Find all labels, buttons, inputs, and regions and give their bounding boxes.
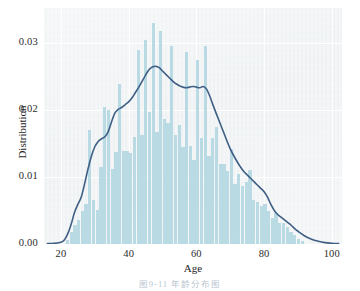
kde-curve — [44, 8, 342, 244]
figure-caption: 图9-11 年龄分布图 — [0, 277, 360, 289]
x-tick-label: 40 — [109, 248, 149, 259]
x-axis-label: Age — [44, 262, 342, 274]
y-tick-label: 0.03 — [0, 36, 38, 47]
plot-area — [44, 8, 342, 244]
x-tick-label: 60 — [176, 248, 216, 259]
y-tick-label: 0.00 — [0, 237, 38, 248]
x-tick-label: 80 — [244, 248, 284, 259]
kde-path — [47, 66, 338, 243]
x-tick-label: 100 — [312, 248, 352, 259]
figure-container: 0.000.010.020.03 20406080100 Age Distrib… — [0, 0, 360, 291]
y-axis-label: Distribution — [16, 77, 28, 187]
x-tick-label: 20 — [41, 248, 81, 259]
